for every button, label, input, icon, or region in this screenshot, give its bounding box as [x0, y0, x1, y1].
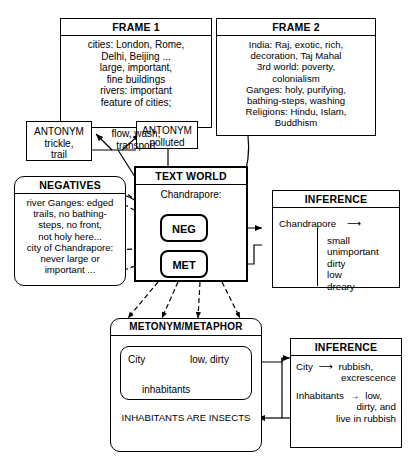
inference-top-subject: Chandrapore — [279, 218, 336, 229]
negatives-header: NEGATIVES — [15, 177, 125, 194]
inference-bottom-value: excrescence — [296, 372, 396, 383]
frame-2-line: India: Raj, exotic, rich, — [220, 39, 372, 50]
inference-bottom-subject: City — [296, 361, 313, 372]
inference-top-item: small — [327, 235, 393, 246]
arrow-metonym-inference — [262, 358, 290, 362]
inference-top-box: INFERENCE Chandrapore ⟶ small unimportan… — [272, 190, 400, 288]
inference-bottom-value: dirty, and — [296, 401, 396, 412]
inference-bottom-value: live in rubbish — [296, 413, 396, 424]
frame-1-line: feature of cities; — [64, 97, 208, 109]
antonym-left-header: ANTONYM — [30, 126, 88, 138]
negatives-line: never large or — [18, 253, 122, 264]
met-node: MET — [160, 250, 208, 278]
frame-2-body: India: Raj, exotic, rich, decoration, Ta… — [217, 36, 375, 132]
arrow-textworld-metonym-3 — [198, 282, 200, 318]
antonym-left-line: trail — [30, 149, 88, 161]
negatives-line: city of Chandrapore: — [18, 242, 122, 253]
negatives-line: steps, no front, — [18, 219, 122, 230]
frame-1-line: rivers: important — [64, 85, 208, 97]
negatives-box: NEGATIVES river Ganges: edged trails, no… — [14, 176, 126, 286]
frame-2-line: Religions: Hindu, Islam, — [220, 106, 372, 117]
metonym-bottom-label: inhabitants — [142, 384, 190, 395]
inference-top-item: unimportant — [327, 246, 393, 257]
frame-2-line: 3rd world: poverty, — [220, 61, 372, 72]
frame-2-line: decoration, Taj Mahal — [220, 50, 372, 61]
frame-1-overflow: flow, wash, transport — [96, 128, 176, 151]
frame-1-line: large, important, — [64, 62, 208, 74]
met-node-label: MET — [162, 252, 206, 278]
inference-bottom-arrow-icon: → — [347, 390, 363, 401]
arrow-textworld-metonym-2 — [162, 282, 178, 318]
inference-bottom-row: Inhabitants → low, dirty, and live in ru… — [296, 390, 396, 424]
frame-1-line: transport — [96, 140, 176, 152]
negatives-line: not holy here... — [18, 231, 122, 242]
negatives-body: river Ganges: edged trails, no bathing- … — [15, 194, 125, 278]
frame-1-line: Delhi, Beijing ... — [64, 51, 208, 63]
inference-top-item: dreary — [327, 281, 393, 292]
frame-2-header: FRAME 2 — [217, 19, 375, 36]
frame-1-header: FRAME 1 — [61, 19, 211, 36]
inference-top-header: INFERENCE — [273, 191, 399, 208]
frame-2-line: colonialism — [220, 73, 372, 84]
inference-top-item: dirty — [327, 258, 393, 269]
antonym-left-body: ANTONYM trickle, trail — [27, 122, 91, 164]
arrow-textworld-metonym-4 — [222, 282, 240, 318]
inference-bottom-value: low, — [365, 390, 382, 401]
metonym-statement: INHABITANTS ARE INSECTS — [112, 412, 260, 423]
inference-top-item: low — [327, 269, 393, 280]
inference-bottom-header: INFERENCE — [291, 339, 401, 356]
metonym-target-label: low, dirty — [190, 354, 229, 365]
neg-node-label: NEG — [162, 216, 206, 242]
diagram-canvas: FRAME 1 cities: London, Rome, Delhi, Bei… — [0, 0, 413, 475]
text-world-subject: Chandrapore: — [136, 185, 246, 204]
inference-bottom-box: INFERENCE City ⟶ rubbish, excrescence In… — [290, 338, 402, 448]
inference-top-bracket — [317, 228, 318, 286]
frame-1-line: cities: London, Rome, — [64, 39, 208, 51]
arrow-textworld-metonym-1 — [128, 282, 158, 318]
antonym-left-box: ANTONYM trickle, trail — [26, 121, 92, 161]
negatives-line: important ... — [18, 264, 122, 275]
negatives-line: river Ganges: edged — [18, 197, 122, 208]
frame-1-box: FRAME 1 cities: London, Rome, Delhi, Bei… — [60, 18, 212, 128]
frame-1-body: cities: London, Rome, Delhi, Beijing ...… — [61, 36, 211, 112]
neg-node: NEG — [160, 214, 208, 242]
frame-2-line: Ganges: holy, purifying, — [220, 84, 372, 95]
negatives-line: trails, no bathing- — [18, 208, 122, 219]
frame-2-box: FRAME 2 India: Raj, exotic, rich, decora… — [216, 18, 376, 136]
inference-bottom-value: rubbish, — [338, 361, 373, 372]
inference-top-arrow-icon: ⟶ — [341, 218, 361, 229]
inference-bottom-subject: Inhabitants — [296, 390, 344, 401]
metonym-source-label: City — [128, 354, 145, 365]
frame-2-line: bathing-steps, washing — [220, 95, 372, 106]
frame-1-line: fine buildings — [64, 74, 208, 86]
metonym-header: METONYM/METAPHOR — [111, 319, 261, 336]
frame-2-line: Buddhism — [220, 117, 372, 128]
inference-bottom-arrow-icon: ⟶ — [316, 361, 336, 372]
inference-bottom-row: City ⟶ rubbish, excrescence — [296, 361, 396, 384]
antonym-left-line: trickle, — [30, 138, 88, 150]
frame-1-line: flow, wash, — [96, 128, 176, 140]
text-world-header: TEXT WORLD — [136, 168, 246, 185]
